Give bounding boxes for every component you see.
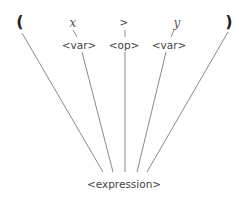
leaf-gt: > — [120, 16, 129, 28]
edge-expression-rparen — [147, 32, 228, 172]
leaf-lparen: ( — [16, 12, 23, 31]
edge-expression-var2 — [137, 52, 166, 172]
leaf-x: x — [70, 16, 77, 30]
leaf-rparen: ) — [225, 12, 232, 31]
edge-expression-lparen — [22, 33, 103, 172]
edge-var1-x — [73, 30, 77, 37]
node-op: <op> — [109, 39, 140, 51]
edge-expression-var1 — [82, 52, 113, 172]
node-var-1: <var> — [62, 39, 97, 51]
node-expression: <expression> — [87, 178, 161, 190]
leaf-y: y — [174, 16, 181, 30]
node-var-2: <var> — [152, 39, 187, 51]
edge-var2-y — [171, 30, 174, 37]
parse-tree-diagram: ( x > y ) <var> <op> <var> <expression> — [0, 0, 239, 209]
